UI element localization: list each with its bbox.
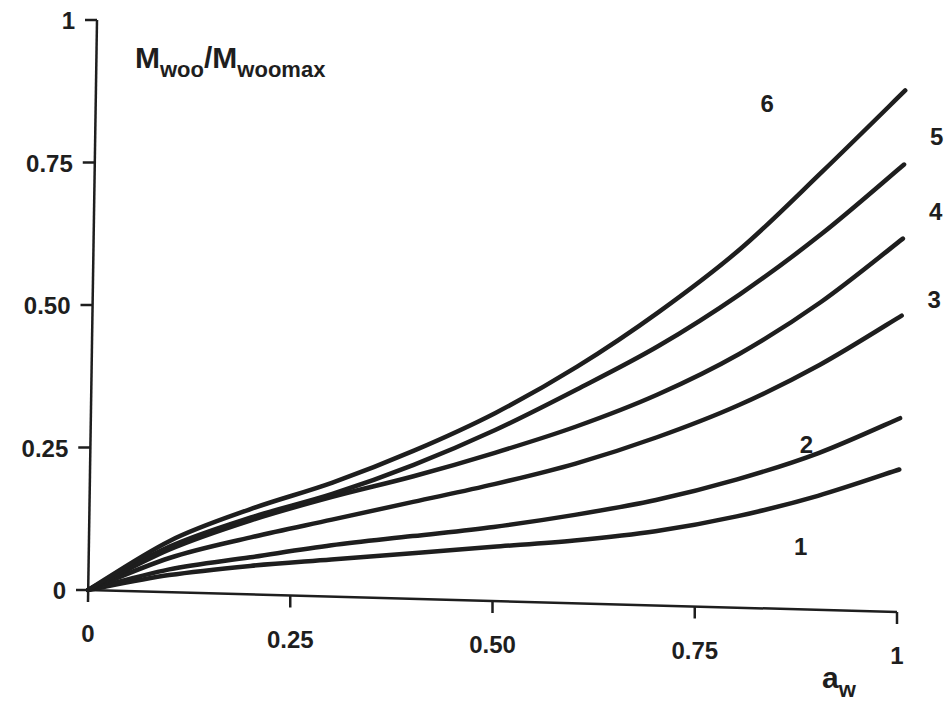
series-label-5: 5: [930, 123, 943, 150]
x-tick-label: 1: [890, 642, 903, 669]
line-chart: 00.250.500.751 00.250.500.751 123456 Mwo…: [0, 0, 945, 712]
y-tick-label: 0.25: [22, 435, 69, 462]
series-label-2: 2: [800, 431, 813, 458]
data-curves: [88, 90, 905, 590]
x-tick-label: 0.75: [671, 637, 718, 664]
curve-6: [88, 90, 905, 590]
series-label-3: 3: [927, 286, 940, 313]
x-tick-label: 0: [81, 620, 94, 647]
y-tick-label: 0.50: [24, 292, 71, 319]
x-tick-label: 0.50: [469, 631, 516, 658]
y-axis: [88, 20, 97, 602]
y-ticks: 00.250.500.751: [22, 7, 97, 604]
y-tick-label: 0.75: [26, 150, 73, 177]
y-axis-title: Mwoo/Mwoomax: [135, 41, 326, 82]
curve-2: [88, 418, 900, 590]
x-axis-title: aw: [822, 661, 857, 702]
x-tick-label: 0.25: [267, 626, 314, 653]
x-ticks: 00.250.500.751: [81, 596, 903, 670]
series-label-6: 6: [761, 90, 774, 117]
y-tick-label: 0: [53, 577, 66, 604]
series-label-4: 4: [929, 198, 943, 225]
y-tick-label: 1: [62, 7, 75, 34]
series-label-1: 1: [794, 533, 807, 560]
